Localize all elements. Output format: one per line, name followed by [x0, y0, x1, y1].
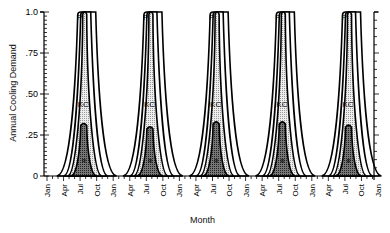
label-kc: KC [78, 100, 89, 109]
x-tick-label: Apr [60, 184, 69, 197]
label-p: P [275, 13, 280, 22]
y-tick-label: 0 [33, 171, 38, 181]
label-kc: KC [144, 100, 155, 109]
plot-area: PKCRPKCRPKCRPKCRPKCR [57, 12, 382, 176]
x-axis-label: Month [190, 215, 215, 225]
y-tick-label: .25 [25, 130, 38, 140]
label-r: R [347, 158, 352, 164]
x-tick-label: Oct [291, 183, 300, 196]
x-tick-label: Jan [43, 184, 52, 197]
label-p: P [209, 13, 214, 22]
x-tick-label: Oct [357, 183, 366, 196]
x-tick-label: Jul [341, 184, 350, 194]
x-tick-label: Jan [374, 184, 383, 197]
x-tick-label: Jul [275, 184, 284, 194]
label-p: P [342, 13, 347, 22]
y-tick-label: .50 [25, 89, 38, 99]
x-tick-label: Apr [192, 184, 201, 197]
label-kc: KC [343, 100, 354, 109]
year-4-humps: PKCR [255, 12, 315, 176]
year-5-humps: PKCR [322, 12, 382, 176]
x-tick-label: Jan [242, 184, 251, 197]
label-r: R [82, 158, 87, 164]
x-tick-label: Jan [308, 184, 317, 197]
x-tick-label: Jul [209, 184, 218, 194]
year-2-humps: PKCR [123, 12, 183, 176]
year-1-humps: PKCR [57, 12, 117, 176]
label-kc: KC [210, 100, 221, 109]
label-r: R [148, 158, 153, 164]
x-tick-label: Oct [93, 183, 102, 196]
x-tick-label: Jul [142, 184, 151, 194]
x-tick-label: Jul [76, 184, 85, 194]
x-tick-label: Apr [258, 184, 267, 197]
label-kc: KC [276, 100, 287, 109]
x-tick-label: Apr [324, 184, 333, 197]
label-p: P [77, 13, 82, 22]
x-tick-label: Apr [126, 184, 135, 197]
y-tick-label: .75 [25, 48, 38, 58]
x-tick-label: Oct [225, 183, 234, 196]
y-tick-label: 1.0 [25, 7, 38, 17]
x-tick-label: Jan [175, 184, 184, 197]
label-p: P [143, 13, 148, 22]
x-tick-label: Oct [159, 183, 168, 196]
x-tick-label: Jan [109, 184, 118, 197]
chart: PKCRPKCRPKCRPKCRPKCR 0.25.50.751.0JanApr… [0, 0, 390, 233]
y-axis-label: Annual Cooling Demand [8, 28, 18, 158]
year-3-humps: PKCR [189, 12, 249, 176]
label-r: R [280, 158, 285, 164]
label-r: R [214, 158, 219, 164]
